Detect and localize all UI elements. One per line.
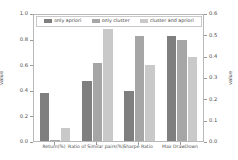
plot-area xyxy=(33,14,204,142)
legend-entry-only-apriori: only apriori xyxy=(44,19,81,24)
bar-0-2 xyxy=(61,128,71,141)
bar-2-2 xyxy=(145,65,155,141)
y-tick-right-3: 0.3 xyxy=(209,75,217,80)
x-tick-label-2: Sharpe Ratio xyxy=(123,145,153,150)
y-tick-left-4: 0.8 xyxy=(20,37,28,42)
y-tick-right-5: 0.5 xyxy=(209,33,217,38)
bar-2-0 xyxy=(124,91,134,141)
legend-entry-only-cluster: only cluster xyxy=(92,19,130,24)
legend-swatch-icon-0 xyxy=(44,19,52,23)
y-tick-left-3: 0.6 xyxy=(20,63,28,68)
legend-label-2: cluster and apriori xyxy=(150,19,194,24)
legend-label-0: only apriori xyxy=(54,19,81,24)
y-axis-left-title: value xyxy=(0,71,5,85)
bar-2-1 xyxy=(135,36,145,141)
y-tick-right-0: 0.0 xyxy=(209,139,217,144)
y-tick-left-2: 0.4 xyxy=(20,88,28,93)
chart-figure: 0.0 0.2 0.4 0.6 0.8 1.0 value 0.0 0.1 0.… xyxy=(0,0,238,160)
bar-3-0 xyxy=(167,36,177,141)
bar-3-1 xyxy=(177,40,187,141)
bars-layer xyxy=(34,15,203,141)
bar-1-0 xyxy=(82,81,92,141)
bar-0-0 xyxy=(40,93,50,141)
bar-1-2 xyxy=(103,29,113,141)
y-tick-right-6: 0.6 xyxy=(209,11,217,16)
x-tick-label-3: Max DrawDown xyxy=(162,145,198,150)
bar-1-1 xyxy=(93,63,103,141)
legend-entry-cluster-and-apriori: cluster and apriori xyxy=(140,19,194,24)
chart-legend: only apriori only cluster cluster and ap… xyxy=(36,16,202,27)
y-tick-left-5: 1.0 xyxy=(20,11,28,16)
y-tick-left-1: 0.2 xyxy=(20,114,28,119)
y-tick-left-0: 0.0 xyxy=(20,139,28,144)
legend-swatch-icon-2 xyxy=(140,19,148,23)
x-tick-label-0: Return(%) xyxy=(42,145,65,150)
x-tick-label-1: Ratio of Similar pairs(%) xyxy=(68,145,124,150)
bar-0-1 xyxy=(50,140,60,141)
legend-label-1: only cluster xyxy=(102,19,130,24)
y-tick-right-1: 0.1 xyxy=(209,118,217,123)
legend-swatch-icon-1 xyxy=(92,19,100,23)
y-tick-right-2: 0.2 xyxy=(209,97,217,102)
y-tick-right-4: 0.4 xyxy=(209,54,217,59)
y-axis-right-title: value xyxy=(228,71,233,85)
bar-3-2 xyxy=(188,57,198,141)
